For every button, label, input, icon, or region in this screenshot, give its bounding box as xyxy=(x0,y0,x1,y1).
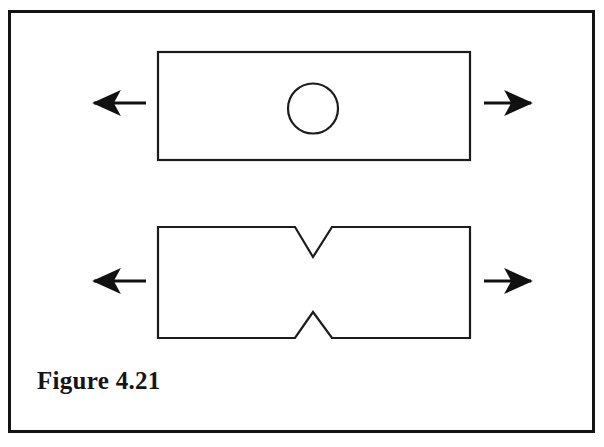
figure-container: Figure 4.21 xyxy=(0,0,604,447)
figure-caption: Figure 4.21 xyxy=(37,368,161,393)
